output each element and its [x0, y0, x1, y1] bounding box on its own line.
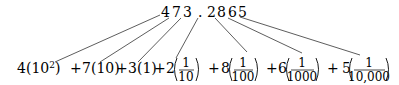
- svg-text:8: 8: [221, 60, 230, 76]
- digit-hundreds: 4: [161, 4, 170, 20]
- digit-hundredths: 8: [217, 4, 226, 20]
- plus-sign: +: [70, 60, 82, 76]
- connector-4: [55, 15, 160, 62]
- connector-lines: [55, 15, 360, 62]
- svg-text:1: 1: [182, 56, 190, 70]
- plus-sign: +: [154, 60, 166, 76]
- digit-thousandths: 6: [228, 4, 237, 20]
- term-thousandths: 6 1 1000: [278, 56, 319, 84]
- plus-sign: +: [116, 60, 128, 76]
- term-ones: 3(1): [128, 60, 157, 76]
- plus-sign: +: [208, 60, 220, 76]
- svg-text:1: 1: [239, 56, 247, 70]
- expanded-notation-diagram: 4 7 3 . 2 8 6 5 4(102) + 7(10) + 3(1) + …: [0, 0, 399, 85]
- svg-text:2: 2: [166, 60, 175, 76]
- decimal-number: 4 7 3 . 2 8 6 5: [161, 4, 247, 20]
- term-hundreds: 4(102): [17, 60, 60, 76]
- svg-text:1: 1: [365, 56, 373, 70]
- connector-2: [176, 18, 198, 58]
- term-ten-thousandths: 5 1 10,000: [342, 56, 390, 84]
- digit-tens: 7: [172, 4, 181, 20]
- term-tenths: 2 1 10: [166, 56, 199, 84]
- plus-sign: +: [266, 60, 278, 76]
- svg-text:10: 10: [178, 70, 193, 84]
- svg-text:10,000: 10,000: [348, 70, 390, 84]
- connector-6: [228, 18, 302, 53]
- plus-sign: +: [327, 60, 339, 76]
- svg-text:100: 100: [232, 70, 255, 84]
- digit-ten-thousandths: 5: [238, 4, 247, 20]
- svg-text:1: 1: [298, 56, 306, 70]
- connector-3: [138, 18, 181, 62]
- connector-7: [100, 18, 169, 62]
- term-hundredths: 8 1 100: [221, 56, 258, 84]
- svg-text:6: 6: [278, 60, 287, 76]
- decimal-point: .: [198, 4, 202, 20]
- connector-8: [215, 18, 247, 52]
- digit-ones: 3: [183, 4, 192, 20]
- svg-text:1000: 1000: [287, 70, 318, 84]
- connector-5: [240, 17, 360, 55]
- term-tens: 7(10): [82, 60, 120, 76]
- digit-tenths: 2: [207, 4, 216, 20]
- expanded-form: 4(102) + 7(10) + 3(1) + 2 1 10 + 8 1 100…: [17, 56, 390, 84]
